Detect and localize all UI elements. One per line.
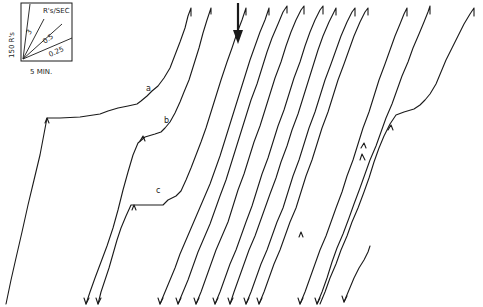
- annotation-c: c: [156, 186, 160, 195]
- trace-segment-13: [320, 8, 474, 304]
- rate-label-05: 0.5: [41, 32, 55, 45]
- trace-tick-11: [360, 154, 365, 160]
- rate-unit-label: R's/SEC: [43, 7, 70, 15]
- cumulative-record-figure: R's/SEC 3 0.5 0.25 150 R's 5 MIN.: [0, 0, 483, 307]
- down-arrow-marker: [233, 3, 243, 44]
- trace-segment-3: [98, 8, 246, 304]
- trace-segment-2: [86, 8, 211, 304]
- rate-legend: R's/SEC 3 0.5 0.25 150 R's 5 MIN.: [8, 3, 72, 76]
- y-scale-label: 150 R's: [8, 32, 16, 58]
- trace-segment-1: [6, 8, 191, 304]
- trace-segment-9: [246, 8, 355, 304]
- trace-segment-12: [317, 6, 430, 304]
- trace-segment-10: [259, 8, 368, 304]
- reset-markers: [84, 296, 347, 304]
- trace-segment-6: [196, 6, 304, 304]
- trace-tick-12: [361, 143, 366, 148]
- trace-tick-3: [132, 205, 136, 210]
- x-scale-label: 5 MIN.: [30, 68, 52, 76]
- annotation-a: a: [146, 84, 151, 93]
- annotation-b: b: [164, 116, 169, 125]
- trace-segment-11: [300, 8, 407, 304]
- trace-segment-14: [344, 246, 370, 302]
- trace-tick-10: [299, 232, 303, 237]
- trace-segment-8: [230, 8, 336, 304]
